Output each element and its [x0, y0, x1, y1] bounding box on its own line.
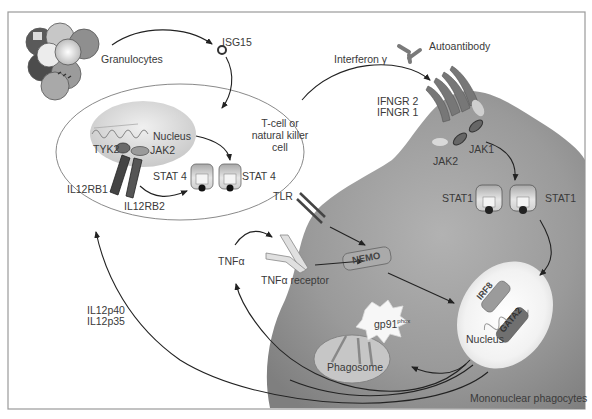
label-il12rb2: IL12RB2 [124, 200, 165, 212]
label-tcell-line3: cell [250, 141, 310, 153]
label-isg15: ISG15 [222, 36, 252, 48]
immune-pathway-diagram: Granulocytes ISG15 Interferon γ Autoanti… [0, 0, 592, 419]
label-jak1: JAK1 [469, 143, 494, 155]
label-mononuclear-phagocytes: Mononuclear phagocytes [470, 392, 587, 404]
label-stat1-right: STAT1 [545, 192, 576, 204]
label-autoantibody: Autoantibody [429, 40, 490, 52]
label-gp91phox: gp91phox [374, 315, 410, 330]
label-stat1-left: STAT1 [442, 192, 473, 204]
label-il12rb1: IL12RB1 [67, 183, 108, 195]
label-tcell-line2: natural killer [245, 129, 315, 141]
label-ifngr1: IFNGR 1 [377, 106, 418, 118]
diagram-canvas [0, 0, 592, 419]
label-tlr: TLR [273, 190, 293, 202]
label-tyk2: TYK2 [93, 143, 119, 155]
label-granulocytes: Granulocytes [101, 53, 163, 65]
label-tnfa: TNFα [218, 255, 244, 267]
label-tcell-line1: T-cell or [250, 117, 310, 129]
label-phagosome: Phagosome [327, 361, 383, 373]
phagosome [314, 335, 390, 383]
label-mono-nucleus: Nucleus [466, 333, 504, 345]
label-tcell-nucleus: Nucleus [153, 130, 191, 142]
label-gp91-base: gp91 [374, 318, 397, 330]
label-jak2-tcell: JAK2 [150, 144, 175, 156]
label-jak2-mono: JAK2 [433, 155, 458, 167]
label-il12p35: IL12p35 [87, 315, 125, 327]
jak2-kinase-tcell [131, 147, 149, 156]
label-gp91-sup: phox [397, 318, 410, 324]
label-stat4-right: STAT 4 [242, 170, 276, 182]
label-tnfa-receptor: TNFα receptor [261, 274, 329, 286]
label-interferon-gamma: Interferon γ [334, 53, 387, 65]
label-stat4-left: STAT 4 [153, 170, 187, 182]
jak2-pale-blob [432, 138, 448, 146]
